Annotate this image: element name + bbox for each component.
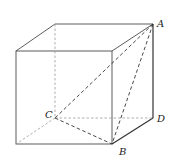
cube-diagram: A B C D	[0, 0, 177, 161]
label-D: D	[156, 113, 165, 124]
front-face	[16, 51, 112, 144]
label-C: C	[45, 109, 53, 120]
hidden-edge-C-bottom-left	[16, 118, 55, 144]
edge-top-right	[112, 24, 153, 51]
label-A: A	[156, 18, 164, 29]
label-B: B	[118, 146, 126, 157]
diagonal-A-C	[55, 24, 153, 118]
edge-top-left	[16, 24, 55, 51]
edge-D-B	[112, 118, 153, 144]
diagonal-C-B	[55, 118, 112, 144]
diagonal-A-B	[112, 24, 153, 144]
